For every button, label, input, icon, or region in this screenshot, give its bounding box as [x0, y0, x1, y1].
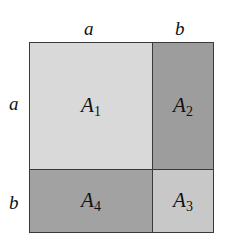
side-label-b: b — [9, 193, 19, 212]
region-a3-label: A3 — [173, 188, 193, 215]
region-a4-label: A4 — [81, 188, 101, 215]
region-a3: A3 — [152, 169, 214, 233]
side-label-a: a — [9, 94, 19, 113]
top-label-a: a — [84, 19, 94, 38]
region-a1: A1 — [29, 42, 153, 170]
region-a4: A4 — [29, 169, 153, 233]
top-label-b: b — [175, 19, 185, 38]
region-a1-label: A1 — [81, 93, 101, 120]
region-a2: A2 — [152, 42, 214, 170]
region-a2-label: A2 — [173, 93, 193, 120]
